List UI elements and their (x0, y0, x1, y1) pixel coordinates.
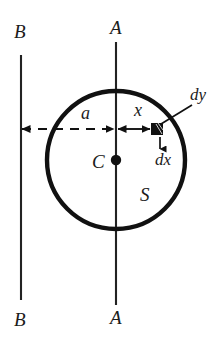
label-element-dy: dy (190, 86, 206, 103)
label-line-b-top: B (14, 22, 26, 41)
diagram-vector-layer (0, 0, 222, 337)
label-radius-a: a (81, 104, 90, 122)
label-surface-s: S (140, 185, 150, 204)
label-line-a-top: A (110, 18, 122, 37)
label-line-b-bottom: B (14, 310, 26, 329)
label-line-a-bottom: A (110, 308, 122, 327)
label-distance-x: x (134, 101, 142, 119)
centre-point-c (111, 155, 121, 165)
label-centre-c: C (92, 152, 105, 171)
label-element-dx: dx (155, 151, 171, 168)
figure-canvas: B A B A a x dy dx C S (0, 0, 222, 337)
